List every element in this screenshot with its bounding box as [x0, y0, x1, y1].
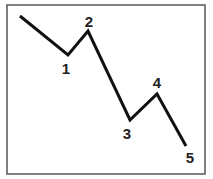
wave-label-2: 2: [85, 13, 93, 30]
wave-label-5: 5: [186, 149, 194, 166]
wave-label-3: 3: [123, 125, 131, 142]
wave-diagram: 1 2 3 4 5: [0, 0, 213, 179]
wave-label-1: 1: [62, 60, 70, 77]
wave-label-4: 4: [153, 74, 162, 91]
